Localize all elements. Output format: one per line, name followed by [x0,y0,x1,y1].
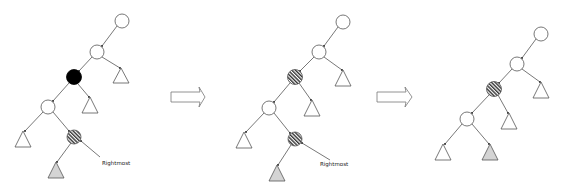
tree-node-root [336,15,350,29]
subtree-triangle [435,144,451,160]
edge [53,112,69,131]
subtree-triangle [533,82,549,98]
edge [324,57,342,70]
transition-arrow-1 [171,87,205,107]
subtree-triangle [82,97,98,113]
tree-node [90,45,104,59]
edge [522,39,536,58]
edge [274,113,290,133]
panel-step-3 [435,27,549,160]
edge [274,83,290,102]
edge [522,69,540,82]
edge [445,124,462,144]
edge [498,95,508,113]
edge [25,112,43,131]
edge [102,26,117,46]
tree-node-hatched [288,70,303,85]
edge [499,69,512,83]
panel-step-2 [236,15,351,181]
subtree-triangle [304,100,320,116]
tree-node-hatched [487,82,502,97]
subtree-triangle-gray [269,165,285,181]
tree-node-black [67,70,82,85]
tree-node [510,57,524,71]
subtree-triangle-gray [48,162,64,178]
tree-node [460,112,474,126]
subtree-triangle [113,68,129,83]
tree-node [262,101,276,115]
rightmost-label: Rightmost [102,160,131,167]
transition-arrow-2 [377,87,412,107]
edge [246,113,264,132]
edge [472,95,489,113]
subtree-triangle [335,70,351,86]
subtree-triangle [501,113,517,129]
tree-transformation-diagram: Rightmost Rightmost [0,0,564,191]
tree-node [41,100,55,114]
edge [324,27,338,46]
rightmost-label: Rightmost [320,161,349,168]
panel-step-1 [15,14,129,178]
subtree-triangle-gray [482,144,498,160]
edge [278,145,291,165]
rightmost-pointer [302,143,330,160]
edge [300,57,314,71]
tree-node-hatched [67,130,81,144]
subtree-triangle [15,131,31,147]
edge [102,57,120,68]
tree-node-hatched [288,132,302,146]
edge [53,83,69,101]
tree-node-root [115,14,129,28]
edge [57,143,71,162]
rightmost-pointer [81,141,100,157]
edge [79,57,92,71]
tree-node [312,45,326,59]
edge [472,124,489,144]
edge [78,84,89,97]
edge [299,83,311,100]
tree-node-root [534,27,548,41]
subtree-triangle [236,132,252,148]
